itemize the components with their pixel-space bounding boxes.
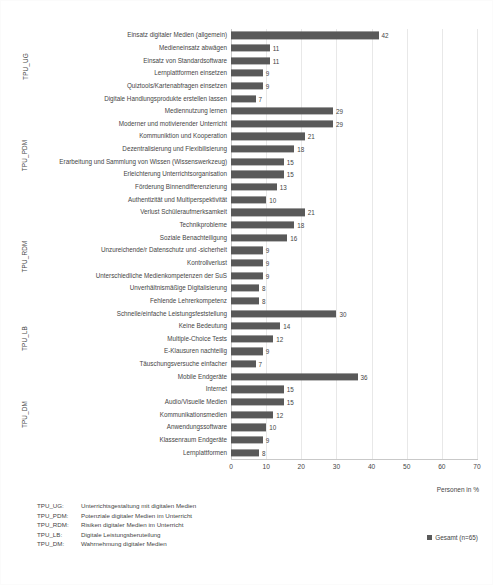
bar-row: Einsatz von Standardsoftware11 xyxy=(35,54,481,67)
bar xyxy=(231,411,273,418)
bar xyxy=(231,146,294,153)
bar-track: 12 xyxy=(231,333,477,346)
abbreviation-row: TPU_RDM:Risiken digitaler Medien im Unte… xyxy=(37,520,377,530)
bar xyxy=(231,424,266,431)
x-tick-label: 40 xyxy=(368,463,375,470)
bar-value-label: 42 xyxy=(382,32,389,39)
bar-row-label: Dezentralisierung und Flexibilisierung xyxy=(35,145,231,153)
bar-row: Täuschungsversuche einfacher7 xyxy=(35,358,481,371)
bar-value-label: 9 xyxy=(266,247,270,254)
bar-track: 15 xyxy=(231,383,477,396)
bar-row: Unzureichende/r Datenschutz und -sicherh… xyxy=(35,244,481,257)
x-tick-label: 10 xyxy=(262,463,269,470)
bar xyxy=(231,247,263,254)
bar-row: Unterschiedliche Medienkompetenzen der S… xyxy=(35,269,481,282)
bar xyxy=(231,234,287,241)
bar-row-label: Einsatz digitaler Medien (allgemein) xyxy=(35,31,231,39)
bar xyxy=(231,361,256,368)
bar-value-label: 10 xyxy=(269,424,276,431)
bar xyxy=(231,373,358,380)
bar-row: Kommuniktion und Kooperation21 xyxy=(35,130,481,143)
bar xyxy=(231,70,263,77)
bar xyxy=(231,335,273,342)
bar-value-label: 18 xyxy=(297,222,304,229)
abbreviation-description: Risiken digitaler Medien im Unterricht xyxy=(81,520,377,530)
group-axis-label-text: TPU_PDM xyxy=(22,140,29,172)
bar-row: Klassenraum Endgeräte9 xyxy=(35,434,481,447)
bar-row: Multiple-Choice Tests12 xyxy=(35,333,481,346)
bar-value-label: 9 xyxy=(266,272,270,279)
group-axis-label-text: TPU_DM xyxy=(22,401,29,428)
bar-track: 11 xyxy=(231,54,477,67)
bar xyxy=(231,285,259,292)
bar-track: 14 xyxy=(231,320,477,333)
abbreviation-description: Digitale Leistungsberuteilung xyxy=(81,530,377,540)
bar-row: Audio/Visuelle Medien15 xyxy=(35,396,481,409)
bar xyxy=(231,44,270,51)
bar-row: Dezentralisierung und Flexibilisierung18 xyxy=(35,143,481,156)
bar-row: Förderung Binnendifferenzierung13 xyxy=(35,181,481,194)
bar-row: Keine Bedeutung14 xyxy=(35,320,481,333)
bar-track: 15 xyxy=(231,168,477,181)
chart-figure: TPU_UGTPU_PDMTPU_RDMTPU_LBTPU_DM Einsatz… xyxy=(0,0,493,585)
bar-row: Erarbeitung und Sammlung von Wissen (Wis… xyxy=(35,155,481,168)
bar-value-label: 15 xyxy=(287,171,294,178)
bar-track: 9 xyxy=(231,345,477,358)
bar-track: 8 xyxy=(231,446,477,459)
abbreviation-key: TPU_UG:Unterrichtsgestaltung mit digital… xyxy=(37,501,377,549)
bar-row: Mobile Endgeräte36 xyxy=(35,370,481,383)
bar-row-label: E-Klausuren nachteilig xyxy=(35,347,231,355)
abbreviation-code: TPU_DM: xyxy=(37,539,81,549)
bar-value-label: 9 xyxy=(266,437,270,444)
bar-row-label: Kommuniktion und Kooperation xyxy=(35,132,231,140)
bar xyxy=(231,297,259,304)
group-axis-label-text: TPU_UG xyxy=(22,54,29,81)
bar-value-label: 9 xyxy=(266,82,270,89)
bar-track: 21 xyxy=(231,130,477,143)
bar-value-label: 29 xyxy=(336,120,343,127)
bar-track: 9 xyxy=(231,67,477,80)
bar-row-label: Technikprobleme xyxy=(35,221,231,229)
bar-row: Mediennutzung lernen29 xyxy=(35,105,481,118)
bar-track: 18 xyxy=(231,219,477,232)
bar-value-label: 10 xyxy=(269,196,276,203)
bar-value-label: 36 xyxy=(361,373,368,380)
bar-row-label: Quiztools/Kartenabfragen einsetzen xyxy=(35,82,231,90)
bar-row: Lernplattformen8 xyxy=(35,446,481,459)
bar-row-label: Schnelle/einfache Leistungsfeststellung xyxy=(35,310,231,318)
bar-track: 12 xyxy=(231,408,477,421)
bar-row: Quiztools/Kartenabfragen einsetzen9 xyxy=(35,80,481,93)
bar-value-label: 15 xyxy=(287,399,294,406)
bar-row: Anwendungssoftware10 xyxy=(35,421,481,434)
bar xyxy=(231,57,270,64)
bar xyxy=(231,398,284,405)
bar-row-label: Unverhältnismäßige Digitalisierung xyxy=(35,284,231,292)
bar-row: Soziale Benachteiligung16 xyxy=(35,231,481,244)
bar-track: 42 xyxy=(231,29,477,42)
bar-value-label: 30 xyxy=(339,310,346,317)
bar-track: 30 xyxy=(231,307,477,320)
group-axis-label-tpu_rdm: TPU_RDM xyxy=(15,206,35,307)
bar-track: 29 xyxy=(231,105,477,118)
bar xyxy=(231,120,333,127)
bar-row-label: Unzureichende/r Datenschutz und -sicherh… xyxy=(35,246,231,254)
bar-row-label: Digitale Handlungsprodukte erstellen las… xyxy=(35,95,231,103)
abbreviation-description: Unterrichtsgestaltung mit digitalen Medi… xyxy=(81,501,377,511)
group-axis: TPU_UGTPU_PDMTPU_RDMTPU_LBTPU_DM xyxy=(15,29,35,471)
bar-row-label: Erleichterung Unterrichtsorganisation xyxy=(35,170,231,178)
bar-value-label: 21 xyxy=(308,209,315,216)
abbreviation-row: TPU_UG:Unterrichtsgestaltung mit digital… xyxy=(37,501,377,511)
bar-row: Moderner und motivierender Unterricht29 xyxy=(35,118,481,131)
bar-row-label: Mobile Endgeräte xyxy=(35,373,231,381)
bar-track: 36 xyxy=(231,370,477,383)
x-tick-label: 50 xyxy=(403,463,410,470)
bar-row-label: Täuschungsversuche einfacher xyxy=(35,360,231,368)
bar-row: Erleichterung Unterrichtsorganisation15 xyxy=(35,168,481,181)
bar-row-label: Klassenraum Endgeräte xyxy=(35,436,231,444)
group-axis-label-tpu_ug: TPU_UG xyxy=(15,29,35,105)
bar xyxy=(231,108,333,115)
bar-track: 7 xyxy=(231,92,477,105)
bar xyxy=(231,95,256,102)
bar xyxy=(231,348,263,355)
x-axis-ticks: 010203040506070 xyxy=(15,463,481,477)
